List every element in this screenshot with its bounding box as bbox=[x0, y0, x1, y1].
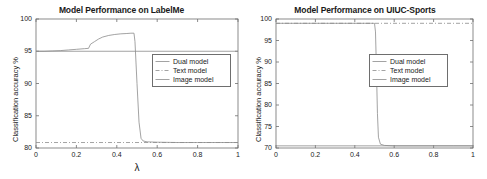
legend-entry: Image model bbox=[155, 75, 227, 84]
legend-line-sample bbox=[372, 67, 387, 74]
x-tick-label: 0.2 bbox=[64, 151, 88, 158]
legend-entry: Dual model bbox=[155, 57, 227, 66]
y-tick-label: 90 bbox=[12, 80, 32, 87]
x-tick-label: 1 bbox=[461, 151, 485, 158]
x-tick-label: 0.4 bbox=[343, 151, 367, 158]
x-tick-label: 0.6 bbox=[145, 151, 169, 158]
x-tick-label: 0 bbox=[264, 151, 288, 158]
y-tick-label: 85 bbox=[252, 80, 272, 87]
y-tick-label: 100 bbox=[12, 15, 32, 22]
y-tick-label: 85 bbox=[12, 112, 32, 119]
x-tick-label: 0.4 bbox=[105, 151, 129, 158]
legend-label: Dual model bbox=[390, 57, 425, 66]
legend-line-sample bbox=[372, 76, 387, 83]
y-tick-label: 75 bbox=[252, 123, 272, 130]
x-tick-label: 0.8 bbox=[422, 151, 446, 158]
series-line bbox=[36, 33, 238, 142]
legend-uiuc-sports: Dual modelText modelImage model bbox=[369, 54, 448, 87]
legend-line-sample bbox=[155, 67, 170, 74]
legend-line-sample bbox=[372, 58, 387, 65]
legend-labelme: Dual modelText modelImage model bbox=[152, 54, 231, 87]
legend-entry: Text model bbox=[155, 66, 227, 75]
y-tick-label: 95 bbox=[12, 47, 32, 54]
chart-panel-labelme: Model Performance on LabelMe Classificat… bbox=[0, 0, 243, 179]
legend-entry: Text model bbox=[372, 66, 444, 75]
x-tick-label: 0.8 bbox=[186, 151, 210, 158]
x-tick-label: 0.6 bbox=[382, 151, 406, 158]
legend-entry: Dual model bbox=[372, 57, 444, 66]
y-tick-label: 95 bbox=[252, 37, 272, 44]
x-tick-label: 0 bbox=[24, 151, 48, 158]
x-tick-label: 0.2 bbox=[303, 151, 327, 158]
legend-label: Dual model bbox=[173, 57, 208, 66]
legend-entry: Image model bbox=[372, 75, 444, 84]
legend-label: Text model bbox=[390, 66, 424, 75]
legend-label: Image model bbox=[390, 75, 430, 84]
y-tick-label: 80 bbox=[12, 144, 32, 151]
y-tick-label: 70 bbox=[252, 144, 272, 151]
legend-line-sample bbox=[155, 58, 170, 65]
chart-panel-uiuc-sports: Model Performance on UIUC-Sports Classif… bbox=[243, 0, 487, 179]
legend-label: Image model bbox=[173, 75, 213, 84]
y-tick-label: 90 bbox=[252, 58, 272, 65]
figure-row: Model Performance on LabelMe Classificat… bbox=[0, 0, 487, 179]
legend-line-sample bbox=[155, 76, 170, 83]
y-tick-label: 80 bbox=[252, 101, 272, 108]
legend-label: Text model bbox=[173, 66, 207, 75]
y-tick-label: 100 bbox=[252, 15, 272, 22]
